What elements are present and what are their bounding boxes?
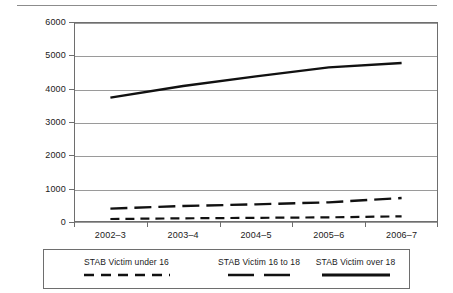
- x-tick-mark-2: [220, 222, 221, 227]
- y-tick-label-5000: 5000: [0, 51, 66, 60]
- x-tick-label-2003-4: 2003–4: [168, 230, 199, 241]
- x-tick-mark-5: [437, 222, 438, 227]
- x-axis-labels: 2002–3 2003–4 2004–5 2005–6 2006–7: [74, 230, 438, 244]
- x-tick-mark-3: [292, 222, 293, 227]
- legend-entry-over-18: STAB Victim over 18: [302, 250, 409, 288]
- y-axis: 6000 5000 4000 3000 2000 1000 0: [0, 22, 66, 222]
- series-line-stab-victim-under-16: [110, 216, 401, 219]
- x-tick-mark-4: [365, 222, 366, 227]
- y-tick-label-6000: 6000: [0, 18, 66, 27]
- y-tick-label-1000: 1000: [0, 185, 66, 194]
- y-tick-label-4000: 4000: [0, 85, 66, 94]
- y-tick-label-0: 0: [0, 218, 66, 227]
- legend-label-over-18: STAB Victim over 18: [302, 257, 409, 267]
- x-tick-label-2006-7: 2006–7: [386, 230, 417, 241]
- x-tick-mark-1: [147, 222, 148, 227]
- y-tick-label-3000: 3000: [0, 118, 66, 127]
- x-tick-label-2002-3: 2002–3: [95, 230, 126, 241]
- series-line-stab-victim-over-18: [110, 63, 401, 98]
- legend-swatch-over-18: [322, 273, 390, 277]
- y-tick-label-2000: 2000: [0, 151, 66, 160]
- series-layer: [74, 22, 438, 222]
- legend-swatch-under-16: [84, 273, 170, 277]
- x-tick-label-2004-5: 2004–5: [240, 230, 271, 241]
- chart-legend: STAB Victim under 16 STAB Victim 16 to 1…: [43, 249, 410, 289]
- line-chart-figure: 6000 5000 4000 3000 2000 1000 0 2002–3 2…: [0, 0, 453, 293]
- x-tick-label-2005-6: 2005–6: [313, 230, 344, 241]
- x-tick-mark-0: [74, 222, 75, 227]
- series-line-stab-victim-16-to-18: [110, 198, 401, 209]
- series-svg: [74, 22, 438, 222]
- legend-swatch-16-to-18: [228, 273, 290, 277]
- x-axis-ticks: [74, 222, 438, 228]
